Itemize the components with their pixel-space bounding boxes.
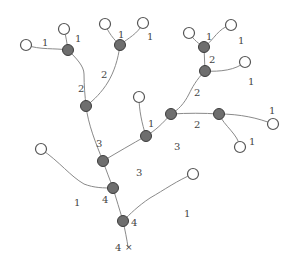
junction-node-N2 (115, 40, 126, 51)
order-label: 1 (184, 208, 190, 219)
junction-node-N7 (166, 109, 177, 120)
edge-N3-N9 (86, 106, 103, 161)
order-label: 3 (96, 138, 102, 149)
edge-N4-N9 (103, 136, 146, 161)
order-label: 1 (148, 118, 154, 129)
order-label: 3 (136, 167, 142, 178)
order-label: 1 (74, 197, 80, 208)
outlet-marker: × (125, 242, 133, 252)
edge-N1-N3 (68, 50, 86, 106)
order-label: 1 (248, 76, 254, 87)
order-label: 2 (78, 83, 84, 94)
order-label: 2 (209, 54, 215, 65)
junction-node-N1 (63, 45, 74, 56)
junction-node-N10 (108, 183, 119, 194)
junction-node-N9 (98, 156, 109, 167)
edge-I-N8 (219, 114, 273, 124)
leaf-node-G (226, 20, 237, 31)
leaf-node-C (100, 19, 111, 30)
junction-node-N4 (141, 131, 152, 142)
leaf-node-L (188, 169, 199, 180)
order-label: 2 (101, 69, 107, 80)
leaf-node-F (184, 28, 195, 39)
order-label: 4 (131, 217, 137, 228)
order-label: 1 (42, 37, 48, 48)
junction-node-N5 (199, 42, 210, 53)
leaf-node-B (59, 24, 70, 35)
order-label: 1 (238, 35, 244, 46)
order-label: 1 (75, 33, 81, 44)
junction-node-N11 (118, 216, 129, 227)
edge-K-N10 (41, 149, 113, 188)
leaf-node-E (134, 92, 145, 103)
order-label: 4 (115, 242, 121, 253)
leaf-node-K (36, 144, 47, 155)
stream-order-tree-diagram: × 1 1 1 1 2 2 1 1 2 1 2 1 2 3 1 1 3 3 1 … (0, 0, 294, 268)
order-label: 1 (249, 136, 255, 147)
leaf-node-D (138, 18, 149, 29)
order-label: 1 (147, 31, 153, 42)
edge-N8-N7 (171, 113, 219, 114)
order-label: 2 (194, 87, 200, 98)
order-label: 1 (118, 29, 124, 40)
junction-node-N6 (200, 66, 211, 77)
nodes-layer: × (21, 18, 279, 253)
edge-L-N11 (123, 174, 193, 221)
junction-node-N8 (214, 109, 225, 120)
leaf-node-A (21, 40, 32, 51)
leaf-node-H (240, 57, 251, 68)
junction-node-N3 (81, 101, 92, 112)
leaf-node-I (268, 119, 279, 130)
order-label: 3 (174, 141, 180, 152)
order-label: 1 (206, 31, 212, 42)
order-label: 2 (194, 119, 200, 130)
leaf-node-J (235, 142, 246, 153)
order-label: 4 (102, 194, 108, 205)
order-label: 1 (269, 105, 275, 116)
